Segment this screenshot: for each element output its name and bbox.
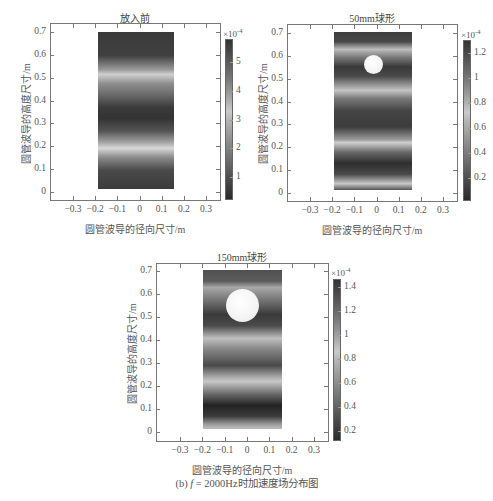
y-tick-mark — [156, 386, 160, 387]
y-tick-label: 0.4 — [128, 334, 152, 344]
colorbar-exponent: ×10-4 — [461, 28, 481, 40]
colorbar-tick-label: 0.2 — [474, 172, 486, 182]
x-tick-mark-top — [292, 264, 293, 268]
colorbar-exponent: ×10-4 — [331, 266, 351, 278]
x-tick-mark — [162, 196, 163, 200]
x-tick-mark-top — [443, 25, 444, 29]
x-tick-mark-top — [332, 25, 333, 29]
y-tick-mark-right — [324, 271, 328, 272]
colorbar-tick-label: 0.4 — [474, 147, 486, 157]
colorbar-tick-mark — [230, 148, 233, 149]
y-tick-mark-right — [216, 78, 220, 79]
y-tick-mark-right — [324, 409, 328, 410]
x-tick-mark — [292, 437, 293, 441]
colorbar-tick-mark — [230, 120, 233, 121]
x-tick-mark — [206, 196, 207, 200]
y-tick-mark — [156, 409, 160, 410]
y-tick-mark — [287, 79, 291, 80]
y-tick-mark — [287, 56, 291, 57]
plot-title: 150mm球形 — [156, 249, 328, 264]
y-tick-label: 0.1 — [22, 163, 46, 173]
y-tick-mark — [287, 147, 291, 148]
y-tick-mark — [50, 78, 54, 79]
colorbar-tick-label: 2 — [236, 142, 241, 152]
y-tick-mark-right — [216, 101, 220, 102]
colorbar-tick-label: 1 — [344, 329, 349, 339]
y-tick-label: 0.2 — [22, 140, 46, 150]
y-tick-mark-right — [216, 169, 220, 170]
colorbar-tick-label: 1 — [474, 72, 479, 82]
y-tick-label: 0 — [22, 186, 46, 196]
colorbar — [463, 40, 471, 201]
x-tick-mark — [443, 197, 444, 201]
colorbar-tick-label: 1.2 — [474, 47, 486, 57]
y-tick-label: 0.7 — [22, 26, 46, 36]
x-tick-mark — [314, 437, 315, 441]
colorbar-tick-label: 0.2 — [344, 425, 356, 435]
heatmap-field — [98, 32, 174, 189]
y-tick-mark-right — [324, 432, 328, 433]
y-tick-label: 0.5 — [128, 311, 152, 321]
colorbar-tick-mark — [338, 431, 341, 432]
figure-caption: (b) f = 2000Hz时加速度场分布图 — [0, 475, 493, 490]
y-tick-mark — [50, 192, 54, 193]
y-tick-mark — [156, 271, 160, 272]
x-tick-mark — [332, 197, 333, 201]
x-tick-mark-top — [399, 25, 400, 29]
y-tick-label: 0.5 — [259, 73, 283, 83]
y-tick-mark-right — [216, 32, 220, 33]
y-tick-label: 0.2 — [128, 380, 152, 390]
x-tick-mark — [354, 197, 355, 201]
y-tick-mark — [156, 317, 160, 318]
colorbar-tick-label: 1.4 — [344, 281, 356, 291]
y-tick-mark — [287, 193, 291, 194]
y-tick-mark — [156, 432, 160, 433]
y-tick-mark-right — [453, 33, 457, 34]
y-tick-mark — [287, 124, 291, 125]
colorbar-tick-mark — [230, 62, 233, 63]
x-tick-mark-top — [247, 264, 248, 268]
y-tick-mark — [50, 55, 54, 56]
y-tick-label: 0.3 — [22, 117, 46, 127]
y-tick-label: 0.1 — [128, 403, 152, 413]
colorbar-tick-mark — [338, 407, 341, 408]
y-tick-mark — [50, 123, 54, 124]
x-tick-mark-top — [117, 24, 118, 28]
x-tick-label: 0.3 — [299, 445, 329, 455]
colorbar-tick-label: 0.6 — [474, 122, 486, 132]
y-tick-mark-right — [453, 102, 457, 103]
y-tick-mark — [156, 363, 160, 364]
colorbar-exponent: ×10-4 — [223, 27, 243, 39]
y-tick-mark — [50, 169, 54, 170]
x-tick-mark — [117, 196, 118, 200]
colorbar-tick-label: 0.8 — [474, 97, 486, 107]
colorbar-tick-mark — [468, 103, 471, 104]
colorbar-tick-mark — [230, 91, 233, 92]
x-tick-mark-top — [377, 25, 378, 29]
x-tick-mark — [140, 196, 141, 200]
x-tick-label: 0.3 — [428, 205, 458, 215]
y-tick-mark-right — [453, 124, 457, 125]
y-tick-mark-right — [324, 294, 328, 295]
y-tick-mark-right — [324, 386, 328, 387]
x-tick-mark — [269, 437, 270, 441]
y-tick-label: 0.6 — [128, 288, 152, 298]
y-tick-label: 0.5 — [22, 72, 46, 82]
y-tick-mark — [287, 33, 291, 34]
colorbar-tick-mark — [338, 335, 341, 336]
y-tick-label: 0.4 — [22, 95, 46, 105]
colorbar-tick-mark — [468, 128, 471, 129]
x-tick-mark — [184, 196, 185, 200]
colorbar-tick-label: 1 — [236, 171, 241, 181]
y-tick-mark — [156, 340, 160, 341]
y-tick-mark — [50, 146, 54, 147]
y-tick-mark-right — [216, 192, 220, 193]
y-tick-mark — [287, 170, 291, 171]
x-tick-mark-top — [95, 24, 96, 28]
x-tick-mark-top — [354, 25, 355, 29]
x-tick-mark — [377, 197, 378, 201]
x-tick-mark-top — [162, 24, 163, 28]
y-tick-mark — [50, 101, 54, 102]
colorbar-tick-label: 0.8 — [344, 353, 356, 363]
y-tick-label: 0 — [259, 187, 283, 197]
